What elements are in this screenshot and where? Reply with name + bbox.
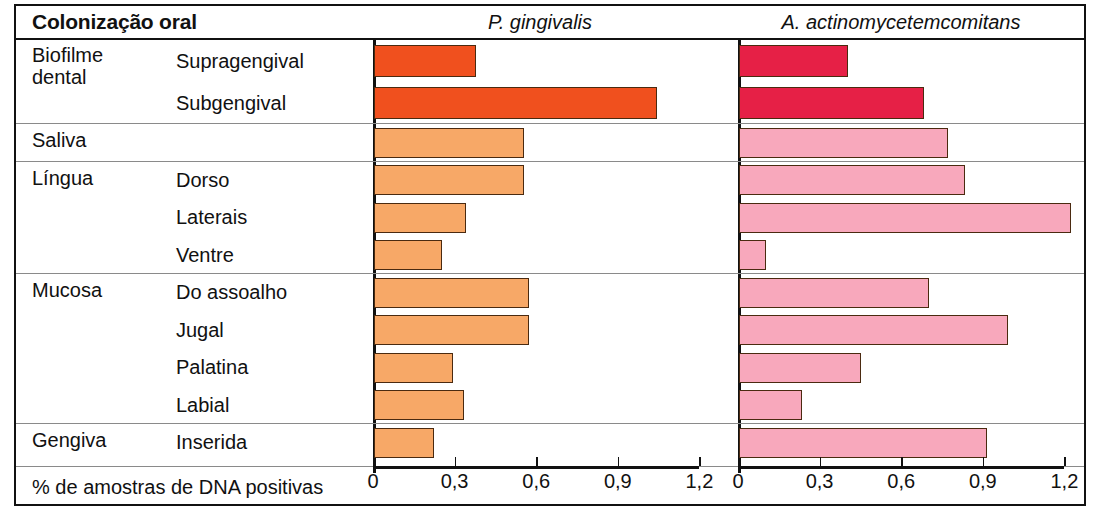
chart-body: BiofilmedentalSupragengivalSubgengivalSa… [16,40,1084,505]
bar-pg [374,128,524,158]
table-row: Supragengival [16,40,1084,82]
group-block: LínguaDorsoLateraisVentre [16,162,1084,275]
bar-pg [374,390,464,420]
axis-tick [983,457,985,466]
x-axis-pg: 00,30,60,91,2 [361,461,719,499]
subcategory-label: Do assoalho [176,281,361,304]
page-title: Colonização oral [16,10,361,34]
axis-tick-label: 0,3 [441,470,469,493]
bar-aa [739,315,1008,345]
bar-aa [739,203,1071,233]
chart-frame: Colonização oral P. gingivalis A. actino… [14,4,1086,506]
axis-tick-label: 0,9 [604,470,632,493]
axis-tick [820,457,822,466]
axis-tick [536,457,538,466]
x-axis-aa: 00,30,60,91,2 [726,461,1090,499]
chart-figure: Colonização oral P. gingivalis A. actino… [0,0,1100,514]
table-row: Labial [16,387,1084,425]
species-header-aa: A. actinomycetemcomitans [719,11,1083,34]
subcategory-label: Labial [176,394,361,417]
chart-header: Colonização oral P. gingivalis A. actino… [16,6,1084,40]
subcategory-label: Inserida [176,431,361,454]
subcategory-label: Supragengival [176,50,361,73]
bar-aa [739,240,766,270]
bar-aa [739,128,948,158]
bar-pg [374,315,529,345]
species-header-pg: P. gingivalis [361,11,719,34]
group-block: GengivaInserida [16,424,1084,462]
axis-tick-label: 0,6 [887,470,915,493]
axis-tick [699,457,701,466]
bar-aa [739,87,924,119]
axis-line [738,466,1064,469]
axis-tick-label: 0,9 [969,470,997,493]
bar-aa [739,45,848,77]
axis-band: % de amostras de DNA positivas 00,30,60,… [16,466,1084,504]
axis-line [373,466,699,469]
bar-aa [739,353,861,383]
bar-aa [739,428,987,458]
subcategory-label: Subgengival [176,92,361,115]
axis-tick-label: 1,2 [685,470,713,493]
group-block: Saliva [16,124,1084,162]
table-row: Palatina [16,349,1084,387]
bar-pg [374,428,434,458]
bar-pg [374,353,453,383]
subcategory-label: Dorso [176,169,361,192]
bar-aa [739,278,929,308]
axis-tick [618,457,620,466]
group-block: BiofilmedentalSupragengivalSubgengival [16,40,1084,124]
bar-pg [374,87,657,119]
axis-tick [901,457,903,466]
axis-tick-label: 1,2 [1050,470,1078,493]
group-block: MucosaDo assoalhoJugalPalatinaLabial [16,274,1084,424]
bar-pg [374,165,524,195]
axis-tick-label: 0,6 [522,470,550,493]
axis-tick-label: 0,3 [806,470,834,493]
bar-aa [739,165,965,195]
axis-caption: % de amostras de DNA positivas [32,476,323,499]
bar-aa [739,390,802,420]
axis-tick [455,457,457,466]
subcategory-label: Laterais [176,206,361,229]
bar-pg [374,45,476,77]
table-row: Ventre [16,237,1084,275]
axis-tick-label: 0 [732,470,743,493]
subcategory-label: Palatina [176,356,361,379]
bar-pg [374,203,466,233]
subcategory-label: Ventre [176,244,361,267]
bar-pg [374,278,529,308]
subcategory-label: Jugal [176,319,361,342]
axis-tick [1064,457,1066,466]
bar-pg [374,240,442,270]
axis-tick-label: 0 [367,470,378,493]
